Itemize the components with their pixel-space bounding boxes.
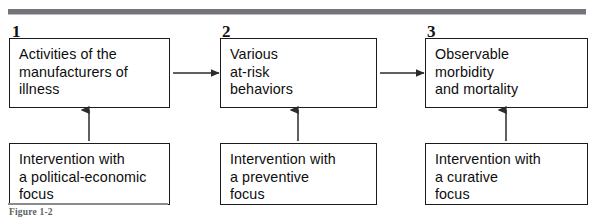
intervention-box-1-text: Intervention with a political-economic f… [19,151,163,204]
process-box-2-text: Various at-risk behaviors [230,46,370,99]
process-box-1-text: Activities of the manufacturers of illne… [19,46,163,99]
intervention-box-3-text: Intervention with a curative focus [435,151,581,204]
caption-divider-rule [8,203,168,205]
process-box-3-text: Observable morbidity and mortality [435,46,581,99]
intervention-box-2: Intervention with a preventive focus [220,143,377,205]
intervention-box-1: Intervention with a political-economic f… [9,143,170,205]
intervention-box-3: Intervention with a curative focus [425,143,588,205]
figure-container: 1 2 3 Activities of the manufacturers of… [0,0,590,219]
figure-caption: Figure 1-2 [9,207,53,217]
intervention-box-2-text: Intervention with a preventive focus [230,151,370,204]
top-divider-rule [8,9,586,14]
process-box-2: Various at-risk behaviors [220,38,377,108]
process-box-1: Activities of the manufacturers of illne… [9,38,170,108]
process-box-3: Observable morbidity and mortality [425,38,588,108]
